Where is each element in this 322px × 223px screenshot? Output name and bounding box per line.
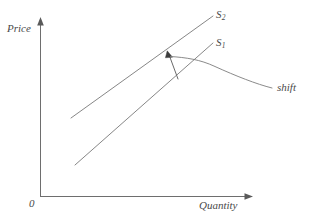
supply-shift-figure: Price Quantity 0 shift S2 S1 <box>0 0 322 223</box>
shift-leader-curve <box>171 57 273 89</box>
origin-label: 0 <box>29 198 35 209</box>
curve-label-s1-letter: S <box>216 36 222 48</box>
y-axis-arrowhead-icon <box>37 17 44 26</box>
curve-label-s2: S2 <box>216 9 225 20</box>
curve-label-s2-letter: S <box>216 8 222 20</box>
shift-arrow-shaft <box>170 56 179 79</box>
curve-label-s1-subscript: 1 <box>222 41 226 50</box>
caption-strip <box>0 214 322 223</box>
curve-label-s1: S1 <box>216 37 225 48</box>
curve-label-s2-subscript: 2 <box>222 13 226 22</box>
supply-curve-s1 <box>75 43 213 165</box>
y-axis-label: Price <box>7 23 31 34</box>
x-axis-arrowhead-icon <box>245 193 254 200</box>
figure-canvas <box>0 0 322 223</box>
supply-curve-s2 <box>71 16 213 118</box>
shift-annotation-label: shift <box>277 82 296 93</box>
x-axis-label: Quantity <box>199 200 238 211</box>
